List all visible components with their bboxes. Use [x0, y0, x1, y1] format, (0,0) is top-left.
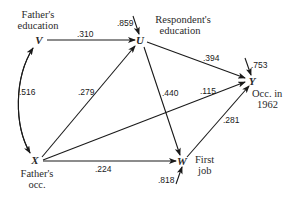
- coef-x-v: .516: [19, 87, 36, 97]
- edge-x-v-correlation: [18, 48, 33, 153]
- node-w: W First job: [177, 154, 214, 176]
- coef-x-y: .115: [200, 86, 216, 96]
- node-w-symbol: W: [177, 155, 188, 167]
- path-diagram: Father's education V U Respondent's educ…: [0, 0, 295, 197]
- residual-w: [176, 167, 182, 184]
- edge-w-y: [187, 86, 249, 157]
- node-v-label-line2: education: [18, 20, 60, 31]
- node-w-label-line1: First: [195, 154, 214, 165]
- node-u-label-line2: education: [160, 25, 202, 36]
- node-y-label-line1: Occ. in: [252, 88, 283, 99]
- node-x-symbol: X: [30, 154, 39, 166]
- node-u-symbol: U: [136, 34, 145, 46]
- coef-x-u: .279: [78, 87, 95, 97]
- edge-u-y: [147, 42, 245, 78]
- coef-x-w: .224: [95, 164, 112, 174]
- coef-u-w: .440: [162, 88, 179, 98]
- coef-residual-y: .753: [251, 60, 268, 70]
- node-x: X Father's occ.: [21, 154, 54, 190]
- node-w-label-line2: job: [197, 165, 211, 176]
- coef-residual-u: .859: [117, 18, 134, 28]
- node-u: U Respondent's education: [136, 14, 211, 46]
- node-x-label-line1: Father's: [21, 168, 54, 179]
- edge-x-u: [42, 46, 135, 157]
- coef-u-y: .394: [203, 53, 220, 63]
- coef-v-u: .310: [77, 29, 94, 39]
- coef-w-y: .281: [223, 115, 240, 125]
- node-y: Y Occ. in 1962: [249, 75, 283, 110]
- node-u-label-line1: Respondent's: [155, 14, 211, 25]
- node-y-symbol: Y: [249, 75, 257, 87]
- residual-u: [133, 16, 139, 34]
- node-x-label-line2: occ.: [28, 179, 45, 190]
- node-y-label-line2: 1962: [257, 99, 278, 110]
- edge-u-w: [144, 47, 180, 155]
- node-v-symbol: V: [35, 34, 44, 46]
- coef-residual-w: .818: [158, 175, 175, 185]
- node-v-label-line1: Father's: [22, 9, 55, 20]
